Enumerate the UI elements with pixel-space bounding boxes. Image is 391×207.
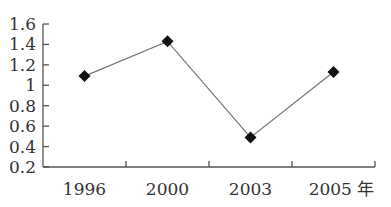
x-tick-label: 1996 xyxy=(63,179,106,199)
line-chart: 1.61.41.210.80.60.40.2 1996200020032005 … xyxy=(0,0,391,207)
y-tick-label: 1.6 xyxy=(9,14,36,34)
diamond-marker-icon xyxy=(79,70,91,82)
series-line xyxy=(85,41,334,137)
y-tick-label: 0.6 xyxy=(9,116,36,136)
y-tick-label: 1 xyxy=(25,75,36,95)
y-tick-label: 0.8 xyxy=(9,96,36,116)
y-axis: 1.61.41.210.80.60.40.2 xyxy=(9,14,49,177)
x-tick-label: 2003 xyxy=(229,179,272,199)
x-tick-label: 2000 xyxy=(146,179,189,199)
x-axis: 1996200020032005 年 xyxy=(43,161,375,199)
data-series xyxy=(79,35,340,143)
y-tick-label: 1.4 xyxy=(9,34,36,54)
y-tick-label: 0.2 xyxy=(9,157,36,177)
y-tick-label: 1.2 xyxy=(9,55,36,75)
y-tick-label: 0.4 xyxy=(9,137,36,157)
diamond-marker-icon xyxy=(328,66,340,78)
x-tick-label: 2005 年 xyxy=(309,179,375,199)
